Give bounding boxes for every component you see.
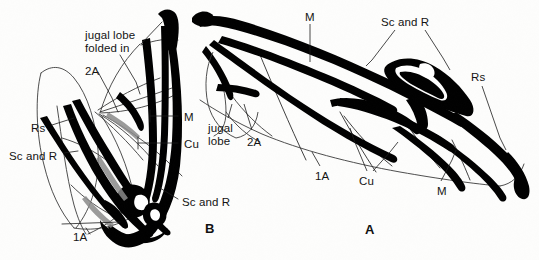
label-2a-a: 2A [247, 136, 261, 149]
label-rs-b: Rs [31, 122, 45, 135]
label-1a-a: 1A [315, 170, 329, 183]
label-sc-and-r-a: Sc and R [381, 16, 429, 29]
label-2a-b: 2A [85, 65, 99, 78]
label-jugal-lobe-folded-in: jugal lobe folded in [85, 29, 135, 55]
label-m-a-top: M [305, 11, 315, 24]
label-jugal-lobe-a: jugal lobe [208, 122, 233, 148]
label-rs-a: Rs [471, 71, 485, 84]
panel-letter-b: B [205, 221, 214, 236]
label-cu-b: Cu [184, 138, 199, 151]
panel-letter-a: A [365, 222, 374, 237]
label-sc-and-r-b-left: Sc and R [9, 150, 57, 163]
label-cu-a: Cu [359, 175, 374, 188]
wing-venation-figure: jugal lobe folded in 2A Rs Sc and R M Cu… [0, 0, 539, 260]
label-m-b: M [184, 111, 194, 124]
figure-drawing [0, 0, 539, 260]
label-1a-b: 1A [73, 231, 87, 244]
label-sc-and-r-b-right: Sc and R [182, 196, 230, 209]
label-m-a-bottom: M [437, 185, 447, 198]
